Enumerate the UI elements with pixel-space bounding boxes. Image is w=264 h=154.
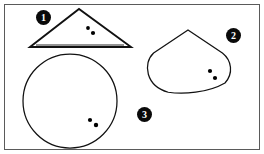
shape-marker-3[interactable]: 3 — [137, 107, 152, 122]
figure-container: 1 2 3 — [0, 0, 264, 154]
shape-3-dot-1 — [88, 118, 92, 122]
shape-marker-2[interactable]: 2 — [226, 28, 241, 43]
shape-1-dot-1 — [86, 26, 90, 30]
shape-2-dot-2 — [213, 76, 217, 80]
shape-marker-1[interactable]: 1 — [36, 10, 51, 25]
shape-3-dot-2 — [94, 123, 98, 127]
shape-2-dot-1 — [208, 69, 212, 73]
shape-1-dot-2 — [91, 31, 95, 35]
